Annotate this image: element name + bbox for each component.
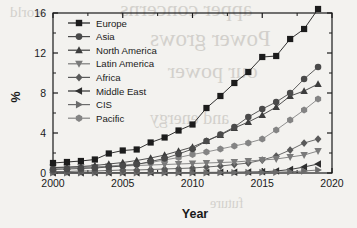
data-point-marker	[50, 160, 56, 166]
data-point-marker	[315, 64, 322, 71]
data-point-marker	[273, 99, 280, 106]
data-point-marker	[273, 126, 279, 133]
legend-label: Pacific	[96, 113, 124, 124]
legend-item-middle-east[interactable]: Middle East	[68, 86, 146, 97]
data-point-marker	[175, 151, 182, 158]
data-point-marker	[287, 36, 293, 42]
series-pacific	[50, 95, 321, 172]
data-point-marker	[64, 166, 71, 173]
data-point-marker	[231, 124, 238, 131]
data-point-marker	[245, 139, 251, 146]
data-point-marker	[217, 93, 223, 99]
data-point-marker	[134, 146, 140, 152]
legend-label: CIS	[96, 99, 112, 110]
legend-label: Middle East	[96, 86, 146, 97]
legend-label: Asia	[96, 31, 115, 42]
data-point-marker	[259, 135, 265, 142]
data-point-marker	[64, 159, 70, 165]
data-point-marker	[315, 6, 321, 12]
y-axis-label: %	[9, 91, 23, 102]
legend-item-europe[interactable]: Europe	[68, 18, 127, 29]
data-point-marker	[189, 121, 195, 127]
data-point-marker	[301, 26, 307, 32]
data-point-marker	[50, 166, 57, 173]
legend-item-asia[interactable]: Asia	[68, 31, 115, 42]
data-point-marker	[217, 145, 223, 152]
data-point-marker	[76, 115, 82, 122]
data-point-marker	[314, 80, 321, 87]
data-point-marker	[287, 146, 294, 154]
legend-item-africa[interactable]: Africa	[68, 72, 121, 83]
data-point-marker	[203, 138, 210, 145]
data-point-marker	[273, 53, 279, 59]
x-axis-label: Year	[182, 207, 209, 221]
data-point-marker	[106, 164, 113, 171]
data-point-marker	[245, 69, 251, 75]
data-point-marker	[301, 76, 308, 83]
legend-label: Latin America	[96, 58, 155, 69]
data-point-marker	[78, 165, 85, 172]
data-point-marker	[259, 106, 266, 113]
data-point-marker	[189, 146, 196, 153]
data-point-marker	[92, 165, 99, 172]
data-point-marker	[76, 20, 82, 26]
series-africa	[50, 135, 322, 175]
data-point-marker	[217, 131, 224, 138]
chart-svg: 20002005201020152020 0481216 EuropeAsiaN…	[0, 0, 357, 228]
legend-label: Europe	[96, 18, 127, 29]
line-chart-figure: 20002005201020152020 0481216 EuropeAsiaN…	[0, 0, 357, 228]
data-point-marker	[76, 101, 83, 109]
chart-legend: EuropeAsiaNorth AmericaLatin AmericaAfri…	[65, 14, 177, 127]
data-point-marker	[245, 114, 252, 121]
data-point-marker	[203, 105, 209, 111]
data-point-marker	[315, 135, 322, 143]
data-point-marker	[120, 147, 126, 153]
data-point-marker	[147, 158, 154, 165]
data-series-layer	[49, 6, 322, 177]
series-europe	[50, 6, 321, 166]
data-point-marker	[259, 54, 265, 60]
legend-label: Africa	[96, 72, 121, 83]
data-point-marker	[203, 148, 209, 155]
y-tick-label: 16	[34, 7, 46, 19]
data-point-marker	[300, 87, 307, 94]
data-point-marker	[76, 33, 83, 40]
data-point-marker	[78, 158, 84, 164]
data-point-marker	[133, 161, 140, 168]
data-point-marker	[75, 87, 82, 95]
data-point-marker	[75, 73, 82, 81]
x-tick-label: 2020	[320, 177, 344, 189]
data-point-marker	[301, 106, 307, 113]
data-point-marker	[231, 142, 237, 149]
y-tick-label: 4	[40, 127, 46, 139]
data-point-marker	[315, 95, 321, 102]
data-point-marker	[231, 80, 237, 86]
legend-item-north-america[interactable]: North America	[68, 45, 157, 56]
y-tick-label: 8	[40, 87, 46, 99]
data-point-marker	[287, 90, 294, 97]
legend-label: North America	[96, 45, 157, 56]
x-tick-label: 2005	[111, 177, 135, 189]
data-point-marker	[106, 150, 112, 156]
y-tick-label: 12	[34, 47, 46, 59]
x-tick-label: 2015	[251, 177, 275, 189]
data-point-marker	[148, 139, 154, 145]
data-point-marker	[161, 155, 168, 162]
legend-item-pacific[interactable]: Pacific	[68, 113, 124, 124]
data-point-marker	[287, 116, 293, 123]
legend-item-cis[interactable]: CIS	[68, 99, 112, 110]
x-tick-label: 2010	[181, 177, 205, 189]
data-point-marker	[92, 156, 98, 162]
y-tick-label: 0	[40, 167, 46, 179]
series-north-america	[49, 80, 321, 170]
data-point-marker	[301, 139, 308, 147]
x-tick-label: 2000	[41, 177, 65, 189]
data-point-marker	[175, 127, 181, 133]
data-point-marker	[162, 134, 168, 140]
data-point-marker	[119, 163, 126, 170]
legend-item-latin-america[interactable]: Latin America	[68, 58, 155, 69]
